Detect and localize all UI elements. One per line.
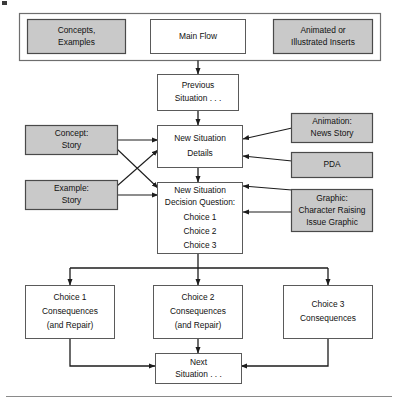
- choice-2-consequences-line3: (and Repair): [175, 320, 222, 330]
- insert-box-graphic-line2: Character Raising: [298, 205, 365, 215]
- choice-3-consequences-line1: Choice 3: [311, 299, 344, 309]
- insert-box-example-story: Example: Story: [26, 181, 118, 210]
- insert-box-example-story-line2: Story: [62, 195, 82, 205]
- flow-box-new-situation-details-line2: Details: [187, 148, 213, 158]
- connector-pda-to-details: [243, 156, 292, 161]
- insert-box-graphic-line1: Graphic:: [316, 193, 348, 203]
- flow-box-decision-choice-1: Choice 1: [183, 212, 216, 222]
- flowchart-diagram: Concepts, Examples Main Flow Animated or…: [0, 0, 398, 404]
- connector-choice1-to-next: [70, 339, 155, 366]
- insert-box-pda: PDA: [292, 153, 373, 178]
- connector-animation-to-details: [243, 128, 292, 139]
- flow-box-decision-line1: New Situation: [174, 185, 226, 195]
- insert-box-concept-story: Concept: Story: [26, 126, 118, 155]
- connector-insert-to-decision-upper: [243, 186, 292, 190]
- flow-box-decision-line2: Decision Question:: [165, 197, 235, 207]
- flow-box-new-situation-decision: New Situation Decision Question: Choice …: [158, 183, 243, 254]
- legend-item-main-flow: Main Flow: [151, 20, 246, 54]
- flow-box-new-situation-details: New Situation Details: [158, 126, 243, 168]
- legend-panel: Concepts, Examples Main Flow Animated or…: [20, 14, 381, 61]
- legend-item-concepts-examples-line2: Examples: [58, 37, 95, 47]
- insert-box-graphic-line3: Issue Graphic: [306, 217, 358, 227]
- insert-box-animation-news-story: Animation: News Story: [292, 114, 373, 143]
- flow-box-new-situation-details-line1: New Situation: [174, 133, 226, 143]
- flow-box-choice-2-consequences: Choice 2 Consequences (and Repair): [154, 286, 243, 339]
- choice-2-consequences-line1: Choice 2: [181, 292, 214, 302]
- flow-box-decision-choice-2: Choice 2: [183, 226, 216, 236]
- flow-box-choice-1-consequences: Choice 1 Consequences (and Repair): [26, 286, 115, 339]
- flow-box-previous-situation: Previous Situation . . .: [158, 75, 239, 111]
- flow-box-next-situation: Next Situation . . .: [156, 354, 242, 384]
- flow-box-decision-choice-3: Choice 3: [183, 240, 216, 250]
- choice-3-consequences-line2: Consequences: [300, 313, 356, 323]
- legend-item-animated-inserts: Animated or Illustrated Inserts: [274, 20, 373, 54]
- flow-box-choice-3-consequences: Choice 3 Consequences: [284, 286, 373, 339]
- flow-box-previous-situation-line1: Previous: [182, 80, 215, 90]
- flow-box-previous-situation-line2: Situation . . .: [175, 93, 222, 103]
- insert-box-animation-line1: Animation:: [312, 116, 352, 126]
- corner-artifact: [2, 1, 7, 5]
- choice-1-consequences-line1: Choice 1: [53, 292, 86, 302]
- insert-box-concept-story-line1: Concept:: [55, 128, 89, 138]
- insert-box-pda-line1: PDA: [323, 159, 341, 169]
- insert-box-example-story-line1: Example:: [54, 183, 89, 193]
- insert-box-animation-line2: News Story: [311, 128, 355, 138]
- flow-box-next-situation-line1: Next: [190, 357, 208, 367]
- legend-item-animated-inserts-line2: Illustrated Inserts: [291, 37, 355, 47]
- choice-1-consequences-line3: (and Repair): [47, 320, 94, 330]
- connector-choice3-to-next: [241, 339, 328, 366]
- insert-box-concept-story-line2: Story: [62, 140, 82, 150]
- legend-item-concepts-examples: Concepts, Examples: [28, 20, 126, 54]
- flow-box-next-situation-line2: Situation . . .: [175, 369, 222, 379]
- insert-box-character-raising-issue-graphic: Graphic: Character Raising Issue Graphic: [292, 190, 373, 232]
- legend-item-main-flow-line1: Main Flow: [179, 31, 218, 41]
- legend-item-concepts-examples-line1: Concepts,: [58, 25, 96, 35]
- choice-1-consequences-line2: Consequences: [42, 306, 98, 316]
- legend-item-animated-inserts-line1: Animated or: [300, 25, 345, 35]
- choice-2-consequences-line2: Consequences: [170, 306, 226, 316]
